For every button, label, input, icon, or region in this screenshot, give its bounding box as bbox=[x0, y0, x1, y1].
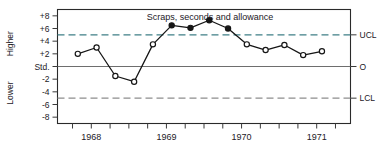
data-point bbox=[75, 51, 80, 56]
reference-label-ucl: UCL bbox=[360, 30, 377, 40]
control-chart: UCLOLCL+8+6+4+2Std.-2-4-6-81968196919701… bbox=[0, 0, 382, 151]
chart-canvas: UCLOLCL+8+6+4+2Std.-2-4-6-81968196919701… bbox=[0, 0, 382, 151]
data-point bbox=[301, 53, 306, 58]
y-tick-label: +4 bbox=[40, 36, 50, 46]
reference-label-lcl: LCL bbox=[360, 93, 376, 103]
y-tick-label: -4 bbox=[42, 87, 50, 97]
x-tick-label: 1970 bbox=[232, 132, 252, 142]
x-tick-label: 1971 bbox=[307, 132, 327, 142]
side-label-higher: Higher bbox=[5, 31, 15, 56]
y-tick-label: Std. bbox=[34, 62, 49, 72]
data-point bbox=[225, 26, 230, 31]
data-point bbox=[188, 25, 193, 30]
y-tick-label: -8 bbox=[42, 112, 50, 122]
data-point bbox=[169, 23, 174, 28]
data-point bbox=[207, 18, 212, 23]
data-point bbox=[113, 73, 118, 78]
y-tick-label: -2 bbox=[42, 74, 50, 84]
data-point bbox=[94, 45, 99, 50]
reference-label-std: O bbox=[360, 62, 367, 72]
y-tick-label: +2 bbox=[40, 49, 50, 59]
data-point bbox=[319, 49, 324, 54]
side-label-lower: Lower bbox=[5, 81, 15, 104]
data-point bbox=[263, 47, 268, 52]
x-tick-label: 1968 bbox=[81, 132, 101, 142]
data-point bbox=[132, 79, 137, 84]
y-tick-label: +6 bbox=[40, 24, 50, 34]
data-point bbox=[244, 42, 249, 47]
data-point bbox=[150, 42, 155, 47]
y-tick-label: -6 bbox=[42, 100, 50, 110]
x-tick-label: 1969 bbox=[156, 132, 176, 142]
y-tick-label: +8 bbox=[40, 11, 50, 21]
data-point bbox=[282, 42, 287, 47]
